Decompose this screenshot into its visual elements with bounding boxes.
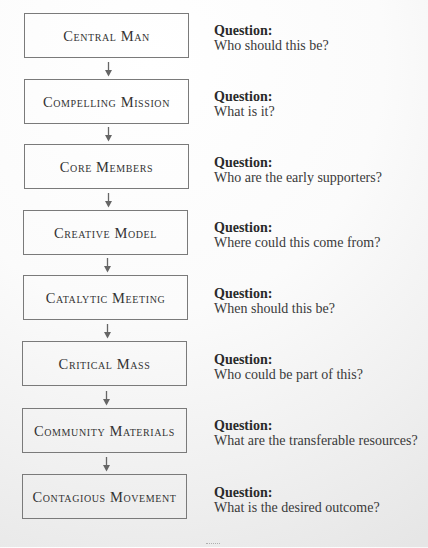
- question-heading: Question:: [214, 220, 428, 235]
- step-label: Critical Mass: [59, 356, 151, 373]
- question-text: When should this be?: [214, 301, 428, 316]
- question-heading: Question:: [214, 155, 428, 170]
- step-box-contagious-movement: Contagious Movement: [22, 474, 187, 519]
- question-text: What is it?: [214, 104, 428, 119]
- question-block-7: Question: What are the transferable reso…: [214, 418, 428, 448]
- question-block-5: Question: When should this be?: [214, 286, 428, 316]
- step-label: Catalytic Meeting: [46, 290, 166, 307]
- question-text: Who could be part of this?: [214, 367, 428, 382]
- question-heading: Question:: [214, 89, 428, 104]
- question-heading: Question:: [214, 23, 428, 38]
- down-arrow-icon: [104, 62, 113, 77]
- down-arrow-icon: [104, 127, 113, 142]
- step-box-community-materials: Community Materials: [22, 408, 187, 453]
- down-arrow-icon: [103, 324, 112, 339]
- question-heading: Question:: [214, 418, 428, 433]
- question-block-3: Question: Who are the early supporters?: [214, 155, 428, 185]
- step-label: Core Members: [60, 159, 153, 176]
- step-label: Community Materials: [34, 423, 175, 440]
- question-heading: Question:: [214, 485, 428, 500]
- step-label: Central Man: [63, 28, 150, 45]
- question-text: What is the desired outcome?: [214, 500, 428, 515]
- question-text: What are the transferable resources?: [214, 433, 428, 448]
- question-text: Who should this be?: [214, 38, 428, 53]
- question-heading: Question:: [214, 352, 428, 367]
- down-arrow-icon: [104, 193, 113, 208]
- question-block-8: Question: What is the desired outcome?: [214, 485, 428, 515]
- step-box-critical-mass: Critical Mass: [22, 341, 187, 386]
- step-box-core-members: Core Members: [24, 144, 189, 189]
- step-box-compelling-mission: Compelling Mission: [24, 79, 189, 124]
- question-block-6: Question: Who could be part of this?: [214, 352, 428, 382]
- step-box-creative-model: Creative Model: [23, 210, 188, 255]
- down-arrow-icon: [102, 391, 111, 406]
- question-heading: Question:: [214, 286, 428, 301]
- question-block-2: Question: What is it?: [214, 89, 428, 119]
- down-arrow-icon: [102, 457, 111, 472]
- cut-off-page-number: [206, 543, 220, 548]
- step-label: Contagious Movement: [32, 489, 176, 506]
- question-block-4: Question: Where could this come from?: [214, 220, 428, 250]
- step-box-central-man: Central Man: [24, 13, 189, 58]
- step-label: Creative Model: [54, 225, 157, 242]
- question-text: Where could this come from?: [214, 235, 428, 250]
- step-box-catalytic-meeting: Catalytic Meeting: [23, 275, 188, 320]
- question-text: Who are the early supporters?: [214, 170, 428, 185]
- question-block-1: Question: Who should this be?: [214, 23, 428, 53]
- step-label: Compelling Mission: [43, 94, 170, 111]
- down-arrow-icon: [103, 258, 112, 273]
